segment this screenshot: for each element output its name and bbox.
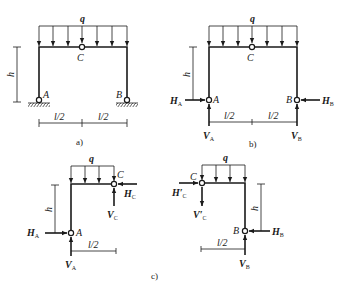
force-label-ha: HA: [26, 227, 40, 239]
hinge-b: [242, 228, 247, 233]
hinge-a: [68, 230, 73, 235]
force-label-vb: VB: [239, 258, 250, 270]
hinge-c: [199, 180, 204, 185]
force-label-vc-prime: V′C: [193, 209, 207, 221]
distributed-load-c-left: [71, 166, 114, 183]
height-label-h: h: [181, 72, 192, 77]
hinge-b: [124, 97, 129, 102]
distributed-load-b: [209, 26, 297, 46]
label-c: C: [117, 169, 124, 180]
force-label-ha: HA: [169, 95, 183, 107]
distributed-load-a: [39, 26, 127, 46]
three-hinged-frame-diagram: q C A B h l/2 l/2 a): [0, 0, 338, 295]
caption-a: a): [76, 137, 83, 147]
height-label-h: h: [249, 206, 260, 211]
ground-hatch-a: [28, 103, 50, 107]
caption-b: b): [249, 139, 257, 149]
panel-a: q C A B h l/2 l/2 a): [5, 13, 138, 147]
span-dimension-b: [209, 119, 297, 125]
force-label-va: VA: [203, 130, 215, 142]
label-b: B: [233, 225, 239, 236]
load-label-q: q: [80, 13, 85, 24]
label-a: A: [75, 227, 83, 238]
hinge-a: [206, 97, 211, 102]
label-c: C: [190, 171, 197, 182]
hinge-c: [79, 44, 84, 49]
load-label-q: q: [89, 153, 94, 164]
load-label-q: q: [250, 13, 255, 24]
height-label-h: h: [43, 207, 54, 212]
label-c: C: [77, 52, 84, 63]
force-label-hb: HB: [321, 95, 334, 107]
panel-c-left: q C A h HA VA HC VC l/2: [26, 153, 137, 271]
force-label-va: VA: [65, 259, 77, 271]
force-label-vb: VB: [291, 130, 302, 142]
distributed-load-c-right: [202, 165, 245, 182]
hinge-c: [111, 181, 116, 186]
caption-c: c): [151, 271, 158, 281]
span-dimension-a: [39, 119, 127, 127]
ground-hatch-b: [116, 103, 138, 107]
panel-c-right: q C B H′C V′C h HB VB l/2: [171, 152, 284, 270]
span-label-left: l/2: [54, 111, 65, 122]
force-label-vc: VC: [107, 209, 118, 221]
label-a: A: [212, 94, 220, 105]
frame-left-half: [71, 184, 112, 231]
force-label-hc-prime: H′C: [171, 187, 187, 199]
panel-b: q C A B h HA VA HB VB l/2 l/2 b): [169, 13, 334, 149]
label-c: C: [247, 52, 254, 63]
hinge-b: [294, 97, 299, 102]
label-b: B: [286, 94, 292, 105]
label-b: B: [116, 89, 122, 100]
height-label-h: h: [5, 72, 16, 77]
force-label-hc: HC: [123, 188, 136, 200]
frame-right-half: [204, 183, 245, 229]
force-label-hb: HB: [271, 226, 284, 238]
label-a: A: [42, 89, 50, 100]
hinge-a: [36, 97, 41, 102]
hinge-c: [249, 44, 254, 49]
span-label-right: l/2: [268, 110, 279, 121]
load-label-q: q: [223, 152, 228, 163]
span-label: l/2: [88, 239, 99, 250]
span-label-right: l/2: [98, 111, 109, 122]
span-label-left: l/2: [224, 110, 235, 121]
span-label: l/2: [217, 237, 228, 248]
